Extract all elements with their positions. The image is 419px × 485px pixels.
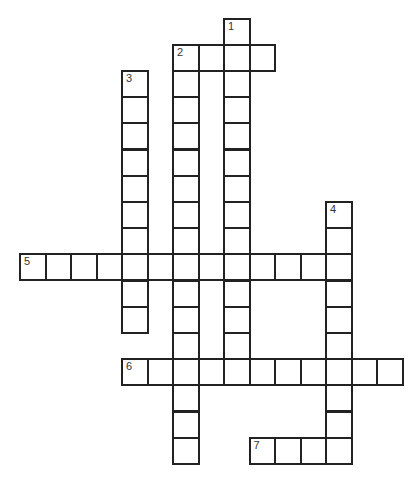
crossword-cell[interactable] <box>172 175 200 203</box>
crossword-cell[interactable] <box>121 122 149 150</box>
clue-number: 7 <box>254 440 260 451</box>
crossword-cell[interactable]: 3 <box>121 70 149 98</box>
crossword-cell[interactable] <box>325 280 353 308</box>
crossword-grid: 1234567 <box>0 0 419 485</box>
crossword-cell[interactable] <box>223 122 251 150</box>
crossword-cell[interactable] <box>198 253 226 281</box>
crossword-cell[interactable] <box>70 253 98 281</box>
crossword-cell[interactable] <box>223 201 251 229</box>
crossword-cell[interactable] <box>274 253 302 281</box>
crossword-cell[interactable] <box>172 96 200 124</box>
crossword-cell[interactable] <box>223 96 251 124</box>
crossword-cell[interactable] <box>172 306 200 334</box>
crossword-cell[interactable] <box>96 253 124 281</box>
crossword-cell[interactable] <box>325 227 353 255</box>
crossword-cell[interactable] <box>121 306 149 334</box>
crossword-cell[interactable]: 4 <box>325 201 353 229</box>
crossword-cell[interactable] <box>223 44 251 72</box>
crossword-cell[interactable] <box>45 253 73 281</box>
crossword-cell[interactable] <box>223 306 251 334</box>
clue-number: 6 <box>126 361 132 372</box>
crossword-cell[interactable] <box>121 227 149 255</box>
crossword-cell[interactable]: 6 <box>121 358 149 386</box>
crossword-cell[interactable] <box>274 437 302 465</box>
crossword-cell[interactable] <box>223 253 251 281</box>
crossword-cell[interactable] <box>147 253 175 281</box>
crossword-cell[interactable] <box>198 44 226 72</box>
crossword-cell[interactable] <box>121 96 149 124</box>
clue-number: 5 <box>24 256 30 267</box>
crossword-cell[interactable] <box>325 253 353 281</box>
crossword-cell[interactable] <box>121 253 149 281</box>
crossword-cell[interactable] <box>325 384 353 412</box>
crossword-cell[interactable] <box>325 306 353 334</box>
crossword-cell[interactable] <box>325 358 353 386</box>
crossword-cell[interactable] <box>121 280 149 308</box>
crossword-cell[interactable] <box>223 227 251 255</box>
crossword-cell[interactable]: 2 <box>172 44 200 72</box>
crossword-cell[interactable] <box>249 253 277 281</box>
crossword-cell[interactable] <box>351 358 379 386</box>
crossword-cell[interactable] <box>223 280 251 308</box>
crossword-cell[interactable]: 1 <box>223 18 251 46</box>
crossword-cell[interactable] <box>121 175 149 203</box>
crossword-cell[interactable] <box>376 358 404 386</box>
crossword-cell[interactable] <box>121 201 149 229</box>
crossword-cell[interactable] <box>300 358 328 386</box>
clue-number: 2 <box>177 47 183 58</box>
crossword-cell[interactable] <box>172 332 200 360</box>
crossword-cell[interactable] <box>325 411 353 439</box>
clue-number: 4 <box>330 204 336 215</box>
crossword-cell[interactable] <box>223 70 251 98</box>
crossword-cell[interactable] <box>172 384 200 412</box>
crossword-cell[interactable] <box>198 358 226 386</box>
crossword-cell[interactable]: 5 <box>19 253 47 281</box>
crossword-cell[interactable] <box>121 149 149 177</box>
crossword-cell[interactable] <box>300 437 328 465</box>
crossword-cell[interactable] <box>172 253 200 281</box>
crossword-cell[interactable] <box>300 253 328 281</box>
crossword-cell[interactable] <box>249 358 277 386</box>
crossword-cell[interactable] <box>325 437 353 465</box>
crossword-cell[interactable] <box>325 332 353 360</box>
crossword-cell[interactable] <box>249 44 277 72</box>
crossword-cell[interactable] <box>223 149 251 177</box>
crossword-cell[interactable] <box>223 175 251 203</box>
crossword-cell[interactable] <box>172 149 200 177</box>
crossword-cell[interactable] <box>274 358 302 386</box>
crossword-cell[interactable] <box>172 227 200 255</box>
clue-number: 3 <box>126 73 132 84</box>
crossword-cell[interactable]: 7 <box>249 437 277 465</box>
crossword-cell[interactable] <box>172 437 200 465</box>
crossword-cell[interactable] <box>172 70 200 98</box>
crossword-cell[interactable] <box>223 358 251 386</box>
crossword-cell[interactable] <box>172 122 200 150</box>
crossword-cell[interactable] <box>172 358 200 386</box>
crossword-cell[interactable] <box>172 201 200 229</box>
crossword-cell[interactable] <box>172 411 200 439</box>
clue-number: 1 <box>228 21 234 32</box>
crossword-cell[interactable] <box>223 332 251 360</box>
crossword-cell[interactable] <box>147 358 175 386</box>
crossword-cell[interactable] <box>172 280 200 308</box>
